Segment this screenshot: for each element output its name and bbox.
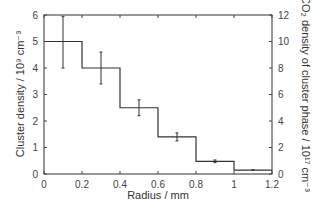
y-tick-label: 4 (32, 63, 38, 74)
y2-axis-title: CO₂ density of cluster phase / 10¹⁷ cm⁻³ (300, 0, 312, 192)
x-tick-label: 0.4 (113, 179, 127, 190)
y-tick-label: 1 (32, 142, 38, 153)
error-bar (252, 170, 255, 171)
step-series (44, 42, 272, 171)
y2-tick-label: 2 (278, 142, 284, 153)
x-tick-label: 0.8 (189, 179, 203, 190)
y2-tick-label: 0 (278, 169, 284, 180)
y2-tick-label: 8 (278, 63, 284, 74)
y2-tick-label: 4 (278, 116, 284, 127)
y-tick-label: 2 (32, 116, 38, 127)
y-tick-label: 6 (32, 10, 38, 21)
x-tick-label: 1.2 (265, 179, 279, 190)
axis-ticks (44, 15, 272, 174)
x-tick-label: 0.2 (75, 179, 89, 190)
error-bars (62, 16, 255, 170)
y2-tick-label: 6 (278, 89, 284, 100)
chart: 00.20.40.60.811.20123456024681012 Radius… (0, 0, 321, 210)
axis-tick-labels: 00.20.40.60.811.20123456024681012 (32, 10, 289, 191)
y-tick-label: 5 (32, 36, 38, 47)
y-tick-label: 3 (32, 89, 38, 100)
error-bar (62, 16, 65, 68)
y-axis-title: Cluster density / 10⁹ cm⁻³ (14, 31, 26, 158)
x-axis-title: Radius / mm (127, 189, 189, 201)
y-tick-label: 0 (32, 169, 38, 180)
y2-tick-label: 12 (278, 10, 290, 21)
y2-tick-label: 10 (278, 36, 290, 47)
x-tick-label: 0 (41, 179, 47, 190)
x-tick-label: 1 (231, 179, 237, 190)
step-line (44, 42, 272, 171)
plot-frame (44, 15, 272, 174)
